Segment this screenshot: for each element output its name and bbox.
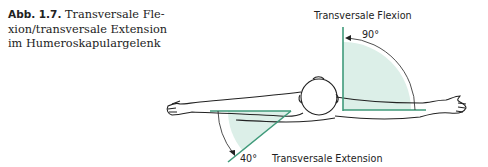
extension-range-fill: [228, 111, 290, 151]
flexion-label: Transversale Flexion: [314, 10, 412, 21]
shoulder-diagram: [0, 0, 488, 167]
flexion-arrowhead: [345, 35, 351, 41]
extension-label: Transversale Extension: [272, 153, 382, 164]
flexion-angle: 90°: [362, 29, 379, 40]
head: [301, 79, 337, 115]
extension-arrowhead: [229, 150, 235, 156]
extension-angle: 40°: [240, 153, 257, 164]
body-outline: [167, 77, 466, 122]
